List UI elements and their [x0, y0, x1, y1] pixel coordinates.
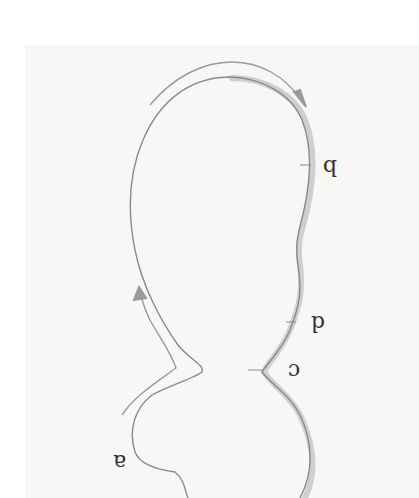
- label-c: c: [288, 360, 300, 382]
- shape-outline: [130, 77, 310, 498]
- label-d: d: [311, 312, 325, 334]
- shape-diagram: [0, 0, 419, 498]
- label-b: b: [323, 156, 337, 178]
- label-a: a: [113, 451, 126, 473]
- left-arrowhead: [134, 287, 146, 300]
